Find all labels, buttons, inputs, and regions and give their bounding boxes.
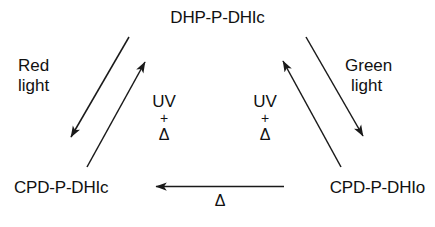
uv-left-arrow <box>87 62 145 167</box>
condition-uv-right-uv: UV <box>253 92 277 111</box>
condition-uv-left-uv: UV <box>152 92 176 111</box>
reaction-scheme-diagram: DHP-P-DHIc CPD-P-DHIc CPD-P-DHIo Red lig… <box>0 0 435 227</box>
condition-uv-right-plus: + <box>243 111 287 126</box>
condition-label-red-light: Red light <box>18 56 49 96</box>
condition-red-line1: Red <box>18 56 49 75</box>
condition-uv-left-delta: Δ <box>142 126 186 144</box>
condition-label-uv-left: UV + Δ <box>142 92 186 144</box>
condition-red-line2: light <box>18 76 49 96</box>
species-label-dhp-p-dhic: DHP-P-DHIc <box>0 8 435 27</box>
condition-uv-left-plus: + <box>142 111 186 126</box>
red-light-arrow <box>71 37 129 137</box>
condition-green-line2: light <box>345 76 392 96</box>
species-label-cpd-p-dhic: CPD-P-DHIc <box>14 178 108 197</box>
species-label-cpd-p-dhio: CPD-P-DHIo <box>330 178 425 197</box>
condition-label-thermal-bottom: Δ <box>200 192 240 210</box>
condition-uv-right-delta: Δ <box>243 126 287 144</box>
condition-label-uv-right: UV + Δ <box>243 92 287 144</box>
uv-right-arrow <box>283 61 341 167</box>
condition-green-line1: Green <box>345 56 392 75</box>
condition-label-green-light: Green light <box>345 56 392 96</box>
